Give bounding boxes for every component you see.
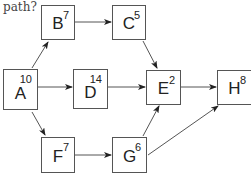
node-c: C 5 (112, 5, 146, 40)
node-a-label: A (4, 85, 37, 103)
node-d-duration: 14 (90, 74, 102, 85)
edge-c-e (143, 41, 157, 68)
node-h: H 8 (217, 70, 251, 105)
edge-a-b (32, 42, 48, 68)
node-a-duration: 10 (20, 74, 32, 85)
node-g: G 6 (112, 137, 147, 173)
node-b: B 7 (41, 5, 75, 40)
node-e: E 2 (146, 70, 181, 105)
node-b-duration: 7 (63, 10, 69, 21)
node-g-duration: 6 (135, 142, 141, 153)
node-g-label: G (113, 148, 146, 166)
edge-g-h (148, 106, 218, 155)
edge-g-e (143, 106, 159, 136)
node-c-duration: 5 (134, 10, 140, 21)
node-f: F 7 (41, 137, 75, 173)
node-f-duration: 7 (63, 142, 69, 153)
node-b-label: B (42, 15, 74, 33)
node-f-label: F (42, 148, 74, 166)
node-e-label: E (147, 80, 180, 98)
node-c-label: C (113, 15, 145, 33)
node-h-duration: 8 (240, 75, 246, 86)
edge-a-f (32, 112, 45, 135)
node-d: D 14 (73, 69, 108, 109)
node-a: A 10 (3, 69, 38, 110)
node-h-label: H (218, 80, 251, 98)
node-d-label: D (74, 84, 107, 102)
node-e-duration: 2 (169, 75, 175, 86)
